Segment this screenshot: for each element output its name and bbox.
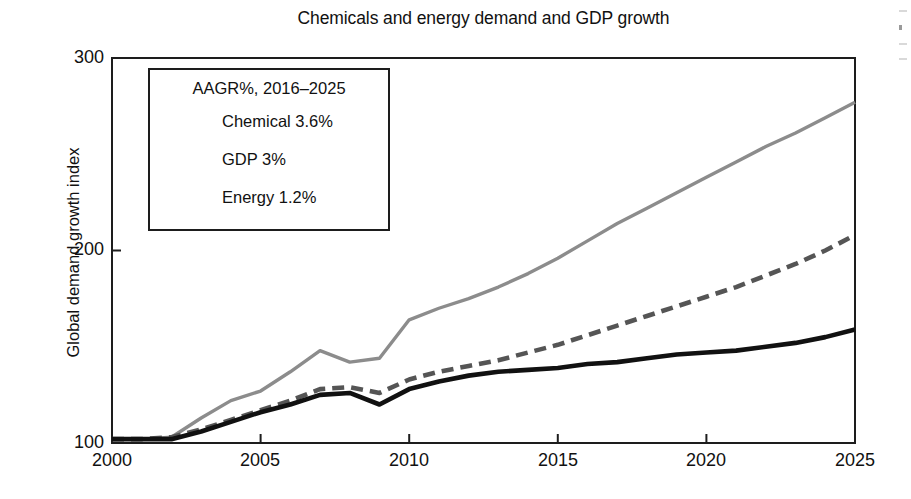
legend-label: GDP 3% <box>222 150 286 169</box>
legend: AAGR%, 2016–2025 Chemical 3.6% GDP 3% En… <box>148 68 390 231</box>
series-line-energy <box>112 329 855 439</box>
legend-label: Chemical 3.6% <box>222 112 333 131</box>
legend-entry-energy: Energy 1.2% <box>156 184 388 218</box>
legend-label: Energy 1.2% <box>222 188 316 207</box>
legend-entry-gdp: GDP 3% <box>156 146 388 180</box>
chart-figure: Chemicals and energy demand and GDP grow… <box>0 0 911 499</box>
legend-title: AAGR%, 2016–2025 <box>150 79 388 98</box>
legend-entry-chemical: Chemical 3.6% <box>156 108 388 142</box>
cropped-edge-marks <box>899 10 909 80</box>
series-line-gdp <box>112 235 855 439</box>
plot-area <box>0 0 911 499</box>
